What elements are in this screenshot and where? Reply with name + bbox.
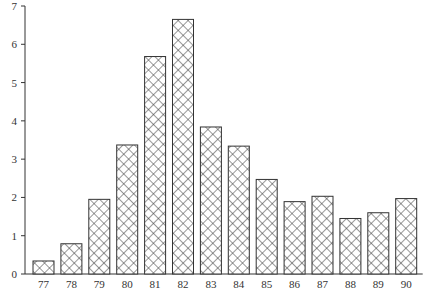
x-tick-label: 81	[150, 278, 161, 290]
bar-82	[173, 19, 194, 274]
x-tick-label: 90	[401, 278, 413, 290]
y-tick-label: 3	[12, 153, 18, 165]
x-tick-label: 82	[178, 278, 189, 290]
y-tick-label: 0	[12, 268, 18, 280]
bar-88	[340, 218, 361, 274]
x-tick-label: 83	[205, 278, 217, 290]
bar-81	[145, 57, 166, 274]
bar-89	[368, 213, 389, 274]
bar-90	[396, 199, 417, 274]
y-tick-label: 2	[12, 191, 18, 203]
x-tick-label: 79	[94, 278, 106, 290]
bar-78	[61, 244, 82, 274]
bar-83	[200, 127, 221, 274]
x-tick-label: 88	[345, 278, 357, 290]
y-tick-label: 4	[12, 115, 18, 127]
x-axis: 7778798081828384858687888990	[25, 274, 423, 290]
x-tick-label: 87	[317, 278, 329, 290]
bar-87	[312, 196, 333, 274]
bar-80	[117, 145, 138, 274]
x-tick-label: 85	[261, 278, 273, 290]
bar-79	[89, 199, 110, 274]
bar-86	[284, 202, 305, 274]
y-tick-label: 7	[12, 0, 18, 12]
x-tick-label: 86	[289, 278, 301, 290]
bars	[33, 19, 417, 274]
y-axis: 01234567	[12, 0, 26, 280]
bar-77	[33, 261, 54, 274]
x-tick-label: 77	[38, 278, 50, 290]
y-tick-label: 5	[12, 77, 18, 89]
bar-85	[256, 179, 277, 274]
y-tick-label: 6	[12, 38, 18, 50]
x-tick-label: 84	[233, 278, 245, 290]
bar-chart: 01234567 7778798081828384858687888990	[0, 0, 427, 291]
x-tick-label: 89	[373, 278, 385, 290]
x-tick-label: 78	[66, 278, 78, 290]
x-tick-label: 80	[122, 278, 134, 290]
bar-84	[228, 146, 249, 274]
y-tick-label: 1	[12, 230, 18, 242]
